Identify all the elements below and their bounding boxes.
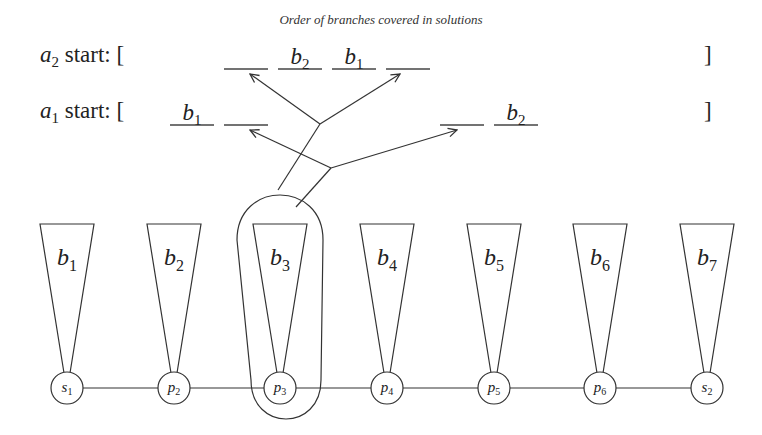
- branch-label: b3: [270, 244, 290, 274]
- slot-branch-label-var: b: [507, 100, 519, 125]
- slot-a1-3: b2: [494, 100, 538, 128]
- branch-label-var: b: [57, 244, 69, 270]
- arrow-stem-a1: [296, 168, 331, 207]
- branch-label-var: b: [697, 244, 709, 270]
- slot-branch-label-subscript: 1: [194, 112, 202, 128]
- arrow-a2-left: [250, 74, 320, 124]
- slot-branch-label-subscript: 2: [302, 56, 310, 72]
- node-s2: s2: [691, 372, 723, 404]
- slot-branch-label: b1: [183, 100, 202, 128]
- branch-label: b6: [590, 244, 610, 274]
- branch-label: b5: [484, 244, 504, 274]
- node-p5: p5: [478, 372, 510, 404]
- slot-branch-label-var: b: [291, 44, 303, 69]
- branch-label: b1: [57, 244, 77, 274]
- node-label-subscript: 1: [67, 386, 72, 397]
- slot-branch-label-var: b: [345, 44, 357, 69]
- row-close-bracket-a2: ]: [704, 42, 712, 67]
- branch-label: b4: [377, 244, 397, 274]
- branch-order-diagram: Order of branches covered in solutions a…: [0, 0, 762, 435]
- slot-branch-label-var: b: [183, 100, 195, 125]
- branch-b6: b6: [573, 224, 627, 373]
- node-label-subscript: 2: [707, 386, 712, 397]
- row-close-bracket-a1: ]: [704, 98, 712, 123]
- row-label-a2: a2 start: [: [40, 42, 124, 70]
- branch-b2: b2: [147, 224, 201, 373]
- branch-label-var: b: [590, 244, 602, 270]
- arrow-a1-right: [331, 130, 457, 168]
- branch-label: b2: [164, 244, 184, 274]
- node-label-subscript: 3: [281, 386, 286, 397]
- branch-label-subscript: 3: [282, 257, 290, 274]
- slot-branch-label: b2: [507, 100, 526, 128]
- branch-b3: b3: [253, 224, 307, 373]
- branch-label-subscript: 5: [496, 257, 504, 274]
- slot-branch-label: b2: [291, 44, 310, 72]
- diagram-title: Order of branches covered in solutions: [279, 12, 482, 27]
- branch-label-var: b: [164, 244, 176, 270]
- node-p6: p6: [584, 372, 616, 404]
- arrow-a1-left: [250, 130, 331, 168]
- node-p2: p2: [158, 372, 190, 404]
- node-s1: s1: [51, 372, 83, 404]
- slot-branch-label-subscript: 2: [518, 112, 526, 128]
- slot-a2-2: b1: [332, 44, 376, 72]
- branch-b4: b4: [360, 224, 414, 373]
- coverage-arrows: [250, 74, 457, 207]
- node-p4: p4: [371, 372, 403, 404]
- slot-a2-1: b2: [278, 44, 322, 72]
- branch-triangles: b1b2b3b4b5b6b7: [40, 224, 734, 373]
- arrow-stem-a2: [278, 124, 320, 190]
- slot-branch-label-subscript: 1: [356, 56, 364, 72]
- branch-label-var: b: [377, 244, 389, 270]
- row-a1: a1 start: []b1b2: [40, 98, 712, 128]
- node-label-subscript: 2: [175, 386, 180, 397]
- arrow-a2-right: [320, 74, 400, 124]
- branch-label-var: b: [484, 244, 496, 270]
- branch-label-subscript: 2: [176, 257, 184, 274]
- node-label-subscript: 4: [388, 386, 393, 397]
- solution-rows: a2 start: []b2b1a1 start: []b1b2: [40, 42, 712, 128]
- branch-label-subscript: 4: [389, 257, 397, 274]
- row-label-a1: a1 start: [: [40, 98, 124, 126]
- branch-b7: b7: [680, 224, 734, 373]
- branch-label-subscript: 1: [69, 257, 77, 274]
- diagram-canvas: Order of branches covered in solutions a…: [0, 0, 762, 435]
- slot-a1-0: b1: [170, 100, 214, 128]
- node-label-subscript: 6: [601, 386, 606, 397]
- slot-branch-label: b1: [345, 44, 364, 72]
- branch-b5: b5: [467, 224, 521, 373]
- node-p3: p3: [264, 372, 296, 404]
- node-label-subscript: 5: [495, 386, 500, 397]
- branch-label-var: b: [270, 244, 282, 270]
- branch-label-subscript: 7: [709, 257, 717, 274]
- row-a2: a2 start: []b2b1: [40, 42, 712, 72]
- branch-label: b7: [697, 244, 717, 274]
- branch-b1: b1: [40, 224, 94, 373]
- branch-label-subscript: 6: [602, 257, 610, 274]
